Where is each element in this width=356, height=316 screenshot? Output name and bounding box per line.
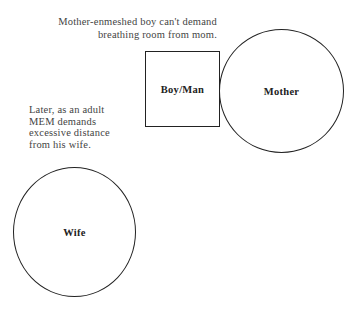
caption-line: excessive distance <box>29 127 119 139</box>
boy-man-label: Boy/Man <box>161 84 205 95</box>
wife-circle: Wife <box>13 167 136 297</box>
mother-label: Mother <box>264 86 300 97</box>
mother-circle: Mother <box>219 29 344 153</box>
caption-mother-enmeshed: Mother-enmeshed boy can't demand breathi… <box>58 15 217 41</box>
caption-line: Mother-enmeshed boy can't demand <box>58 15 217 28</box>
wife-label: Wife <box>63 227 86 238</box>
caption-line: MEM demands <box>29 116 119 128</box>
caption-line: breathing room from mom. <box>58 28 217 41</box>
caption-later-adult: Later, as an adult MEM demands excessive… <box>29 104 119 150</box>
caption-line: Later, as an adult <box>29 104 119 116</box>
boy-man-square: Boy/Man <box>145 51 220 127</box>
caption-line: from his wife. <box>29 139 119 151</box>
